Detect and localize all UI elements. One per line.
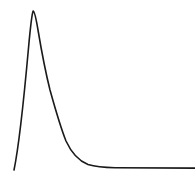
distribution-curve-plot (0, 0, 195, 178)
plot-background (0, 0, 195, 178)
chart-figure (0, 0, 195, 178)
